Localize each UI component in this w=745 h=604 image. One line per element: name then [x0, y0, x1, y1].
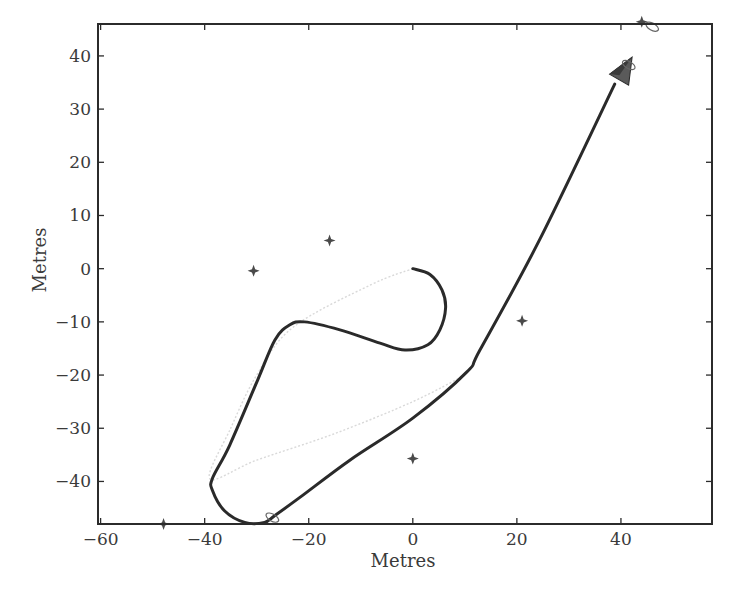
y-tick-label: 20 — [69, 152, 91, 172]
y-axis-label: Metres — [29, 228, 50, 293]
landmark-star-icon — [516, 315, 528, 327]
x-tick-label: −60 — [83, 529, 119, 549]
x-axis-label: Metres — [371, 550, 436, 571]
y-tick-label: −10 — [55, 312, 91, 332]
x-tick-label: −20 — [291, 529, 327, 549]
chart-canvas: −60−40−2002040 403020100−10−20−30−40 Met… — [0, 0, 745, 604]
y-tick-label: −30 — [55, 418, 91, 438]
x-tick-label: 0 — [407, 529, 418, 549]
y-tick-label: 0 — [80, 259, 91, 279]
y-axis-ticks: 403020100−10−20−30−40 — [55, 46, 712, 492]
pose-annotations — [265, 20, 660, 524]
y-tick-label: 30 — [69, 99, 91, 119]
y-tick-label: −20 — [55, 365, 91, 385]
landmark-star-icon — [324, 234, 336, 246]
y-tick-label: 10 — [69, 205, 91, 225]
landmark-star-icon — [248, 265, 260, 277]
x-tick-label: 20 — [506, 529, 528, 549]
landmark-markers — [158, 16, 648, 530]
estimate-path — [209, 269, 465, 480]
uncertainty-ellipse-icon — [644, 20, 660, 33]
landmark-star-icon — [407, 453, 419, 465]
x-tick-label: 40 — [610, 529, 632, 549]
y-tick-label: 40 — [69, 46, 91, 66]
x-tick-label: −40 — [187, 529, 223, 549]
plot-frame — [98, 24, 712, 524]
x-axis-ticks: −60−40−2002040 — [83, 24, 632, 549]
vehicle-arrow-icon — [610, 52, 642, 86]
estimated-path-line — [209, 269, 465, 480]
y-tick-label: −40 — [55, 471, 91, 491]
